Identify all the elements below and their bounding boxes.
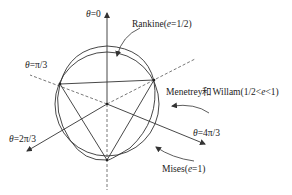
menetrey-willam-pointer — [172, 105, 209, 113]
label-menetrey-willam: Menetrey和Willam(1/2<e<1) — [166, 88, 279, 98]
vertex-dot — [59, 83, 62, 86]
label-theta-2pi-3: θ=2π/3 — [9, 135, 36, 145]
label-theta-0: θ=0 — [86, 10, 101, 20]
center-dot — [106, 103, 108, 105]
rankine-pointer — [117, 28, 140, 56]
vertex-dot — [153, 79, 156, 82]
label-theta-pi-3: θ=π/3 — [25, 61, 47, 71]
vertex-dot — [106, 159, 109, 162]
axis-theta-pi-3 — [30, 75, 107, 104]
label-mises: Mises(e=1) — [162, 165, 205, 175]
axis-theta-2pi-3 — [27, 104, 107, 151]
label-rankine: Rankine(e=1/2) — [132, 20, 192, 30]
axis-theta-4pi-3 — [107, 104, 205, 144]
label-theta-4pi-3: θ=4π/3 — [193, 129, 220, 139]
mises-pointer — [156, 147, 194, 161]
